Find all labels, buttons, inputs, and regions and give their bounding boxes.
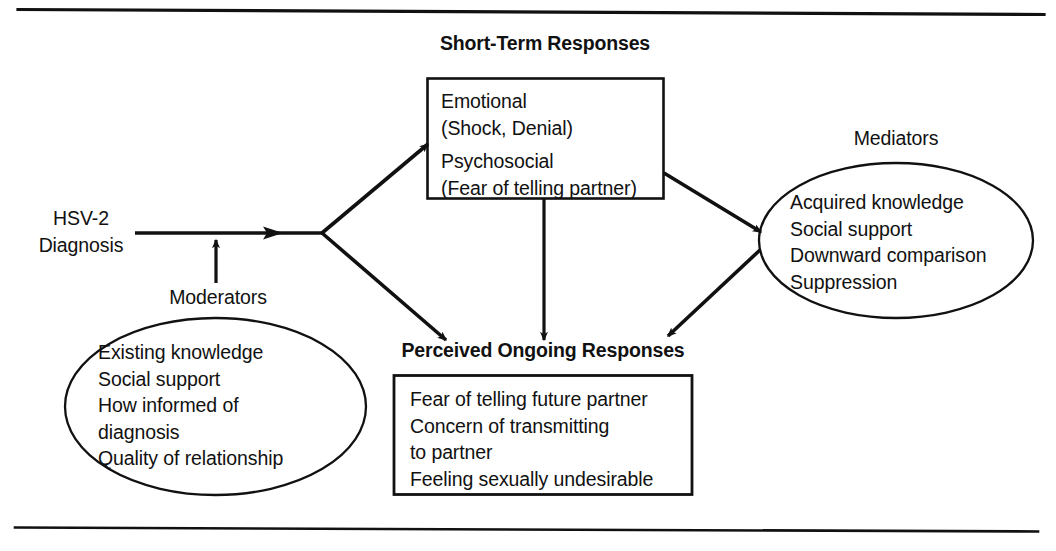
edge-short-term-to-mediators xyxy=(664,173,761,232)
moderators-item-1: Social support xyxy=(98,366,220,393)
short-term-item-1: (Shock, Denial) xyxy=(441,115,573,142)
moderators-item-4: Quality of relationship xyxy=(98,445,283,472)
source-node-line1: HSV-2 xyxy=(53,209,109,229)
moderators-label: Moderators xyxy=(169,288,267,308)
short-term-item-3: (Fear of telling partner) xyxy=(441,175,637,202)
short-term-item-0: Emotional xyxy=(441,88,527,115)
mediators-item-0: Acquired knowledge xyxy=(790,189,964,216)
mediators-item-2: Downward comparison xyxy=(790,242,986,269)
moderators-item-2: How informed of xyxy=(98,392,238,419)
ongoing-item-1: Concern of transmitting xyxy=(410,413,609,440)
bottom-rule xyxy=(15,528,1038,532)
edge-junction-to-short-term xyxy=(322,144,428,233)
short-term-item-2: Psychosocial xyxy=(441,148,554,175)
edge-mediators-to-ongoing xyxy=(668,250,760,336)
mediators-item-1: Social support xyxy=(790,216,912,243)
ongoing-item-3: Feeling sexually undesirable xyxy=(410,466,653,493)
moderators-item-0: Existing knowledge xyxy=(98,339,263,366)
edge-junction-to-ongoing xyxy=(322,233,446,340)
figure-canvas: HSV-2 Diagnosis Moderators Existing know… xyxy=(0,0,1056,551)
ongoing-item-0: Fear of telling future partner xyxy=(410,386,648,413)
ongoing-item-2: to partner xyxy=(410,439,492,466)
source-node-line2: Diagnosis xyxy=(39,236,124,256)
mediators-item-3: Suppression xyxy=(790,269,897,296)
mediators-label: Mediators xyxy=(854,129,939,149)
perceived-ongoing-responses-heading: Perceived Ongoing Responses xyxy=(401,341,684,361)
moderators-item-3: diagnosis xyxy=(98,419,180,446)
top-rule xyxy=(18,10,1044,15)
short-term-responses-heading: Short-Term Responses xyxy=(440,34,650,54)
